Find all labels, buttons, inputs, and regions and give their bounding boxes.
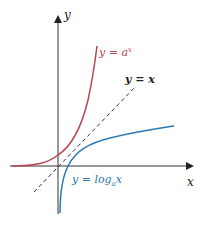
- y-axis-label: y: [63, 8, 71, 22]
- x-axis-label: x: [187, 175, 194, 189]
- exp-curve-label: y = ax: [98, 46, 132, 59]
- log-curve-label: y = logax: [71, 173, 123, 188]
- logarithm-curve: [60, 126, 174, 213]
- identity-label: y = x: [124, 73, 155, 86]
- exp-log-graph: y x y = ax y = x y = logax: [0, 0, 206, 231]
